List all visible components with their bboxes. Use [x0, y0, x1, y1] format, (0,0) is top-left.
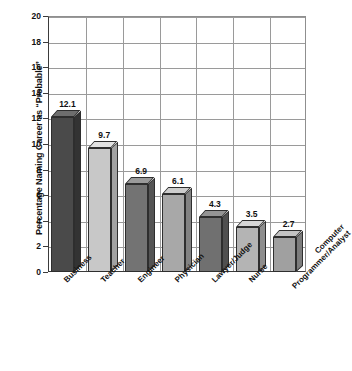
gridline-vertical — [196, 17, 197, 271]
gridline-vertical — [123, 17, 124, 271]
y-axis-tick-mark — [43, 246, 48, 247]
y-axis-tick-mark — [43, 42, 48, 43]
gridline-horizontal — [49, 94, 305, 95]
gridline-vertical — [160, 17, 161, 271]
y-axis-tick-mark — [43, 272, 48, 273]
gridline-horizontal — [49, 119, 305, 120]
y-axis-tick-label: 10 — [32, 139, 41, 149]
y-axis-tick-mark — [43, 144, 48, 145]
bar-value-label: 3.5 — [229, 209, 275, 219]
gridline-horizontal — [49, 145, 305, 146]
y-axis-tick-mark — [43, 67, 48, 68]
bar-front-face — [88, 148, 111, 272]
bar — [125, 184, 148, 272]
bar-front-face — [51, 117, 74, 272]
bar-side-face — [148, 177, 155, 272]
bar-front-face — [273, 237, 296, 272]
y-axis-tick-mark — [43, 93, 48, 94]
bar — [51, 117, 74, 272]
y-axis-tick-label: 6 — [36, 190, 41, 200]
gridline-vertical — [233, 17, 234, 271]
y-axis-tick-mark — [43, 118, 48, 119]
bar-front-face — [125, 184, 148, 272]
y-axis-tick-mark — [43, 195, 48, 196]
bar — [273, 237, 296, 272]
gridline-horizontal — [49, 17, 305, 18]
bar-value-label: 9.7 — [81, 130, 127, 140]
y-axis-tick-label: 0 — [36, 267, 41, 277]
y-axis-tick-label: 2 — [36, 241, 41, 251]
bar — [88, 148, 111, 272]
bar — [199, 217, 222, 272]
y-axis-tick-label: 8 — [36, 165, 41, 175]
bar-front-face — [199, 217, 222, 272]
y-axis-tick-mark — [43, 170, 48, 171]
y-axis-tick-label: 18 — [32, 37, 41, 47]
bar-value-label: 6.1 — [155, 176, 201, 186]
y-axis-tick-mark — [43, 221, 48, 222]
y-axis-tick-label: 16 — [32, 62, 41, 72]
gridline-horizontal — [49, 68, 305, 69]
y-axis-tick-label: 12 — [32, 113, 41, 123]
gridline-vertical — [86, 17, 87, 271]
y-axis-tick-label: 20 — [32, 11, 41, 21]
bar-side-face — [111, 142, 118, 272]
gridline-horizontal — [49, 43, 305, 44]
bar-value-label: 12.1 — [44, 99, 90, 109]
gridline-vertical — [270, 17, 271, 271]
y-axis-tick-mark — [43, 16, 48, 17]
y-axis-tick-label: 4 — [36, 216, 41, 226]
bar-value-label: 2.7 — [266, 219, 312, 229]
y-axis-tick-label: 14 — [32, 88, 41, 98]
bar-value-label: 4.3 — [192, 199, 238, 209]
bar-value-label: 6.9 — [118, 166, 164, 176]
